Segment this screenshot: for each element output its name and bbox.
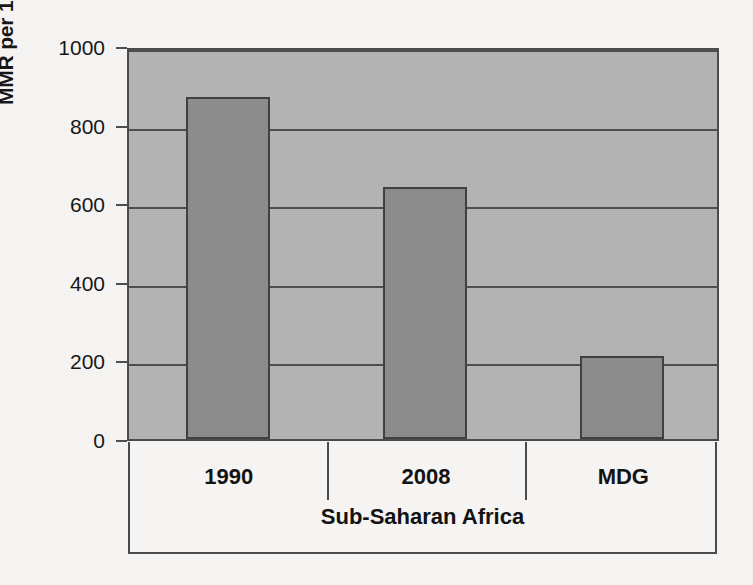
x-axis-title: Sub-Saharan Africa: [130, 504, 715, 530]
y-axis-tick-mark: [116, 361, 127, 363]
y-axis-tick-label: 200: [33, 350, 105, 374]
gridline: [129, 50, 717, 52]
y-axis-tick-mark: [116, 440, 127, 442]
y-axis-tick-label: 0: [33, 429, 105, 453]
y-axis-tick-mark: [116, 283, 127, 285]
plot-area: [127, 48, 719, 441]
y-axis-tick-labels: 10008006004002000: [0, 48, 127, 441]
y-axis-tick-mark: [116, 204, 127, 206]
y-axis-tick-mark: [116, 47, 127, 49]
y-axis-tick-label: 800: [33, 115, 105, 139]
y-axis-tick-label: 400: [33, 272, 105, 296]
bar-1990: [186, 97, 270, 439]
y-axis-tick-marks: [116, 48, 127, 441]
bar-MDG: [580, 356, 664, 439]
category-label-MDG: MDG: [525, 454, 722, 500]
category-label-2008: 2008: [327, 454, 524, 500]
y-axis-tick-label: 1000: [33, 36, 105, 60]
chart-canvas: MMR per 100,000 livebirths 1000800600400…: [0, 0, 753, 585]
category-label-box: 19902008MDG Sub-Saharan Africa: [128, 442, 717, 554]
y-axis-tick-label: 600: [33, 193, 105, 217]
category-label-1990: 1990: [130, 454, 327, 500]
bar-2008: [383, 187, 467, 439]
y-axis-tick-mark: [116, 126, 127, 128]
